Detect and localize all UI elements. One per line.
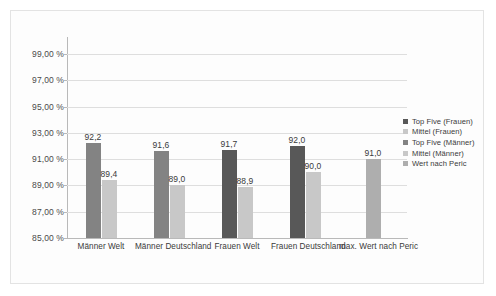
- bar: [154, 151, 169, 238]
- bar: [170, 185, 185, 238]
- bar-value-label: 89,0: [169, 174, 186, 184]
- x-axis-category-label: Frauen Deutschland: [271, 242, 339, 251]
- gridline: [67, 54, 407, 55]
- legend-label: Top Five (Männer): [412, 138, 474, 147]
- gridline: [67, 159, 407, 160]
- legend-swatch-icon: [403, 129, 408, 134]
- x-axis-category-label: Frauen Welt: [203, 242, 271, 251]
- bar-value-label: 92,0: [289, 135, 306, 145]
- legend-item[interactable]: Mittel (Männer): [403, 148, 495, 159]
- legend-item[interactable]: Wert nach Peric: [403, 158, 495, 169]
- bar-value-label: 91,6: [153, 140, 170, 150]
- bar-value-label: 91,7: [221, 139, 238, 149]
- legend-label: Mittel (Frauen): [412, 127, 462, 136]
- x-axis-category-label: Männer Welt: [67, 242, 135, 251]
- legend-item[interactable]: Top Five (Frauen): [403, 116, 495, 127]
- bar: [102, 180, 117, 238]
- y-axis-tick-label: 95,00 %: [32, 102, 64, 112]
- bar: [86, 143, 101, 238]
- bar-value-label: 91,0: [365, 148, 382, 158]
- gridline: [67, 107, 407, 108]
- bar: [306, 172, 321, 238]
- legend-item[interactable]: Mittel (Frauen): [403, 127, 495, 138]
- legend-swatch-icon: [403, 161, 408, 166]
- x-axis-line: [67, 238, 408, 239]
- legend-item[interactable]: Top Five (Männer): [403, 137, 495, 148]
- bar: [290, 146, 305, 238]
- bar-value-label: 88,9: [237, 176, 254, 186]
- chart-frame: 85,00 %87,00 %89,00 %91,00 %93,00 %95,00…: [10, 10, 484, 284]
- y-axis-tick-label: 87,00 %: [32, 207, 64, 217]
- gridline: [67, 80, 407, 81]
- bar: [238, 187, 253, 238]
- y-axis-tick-labels: 85,00 %87,00 %89,00 %91,00 %93,00 %95,00…: [11, 11, 64, 296]
- legend-label: Mittel (Männer): [412, 149, 464, 158]
- bar-value-label: 89,4: [101, 169, 118, 179]
- y-axis-tick-label: 97,00 %: [32, 75, 64, 85]
- bar: [366, 159, 381, 238]
- plot-area: 92,289,491,689,091,788,992,090,091,0: [67, 41, 407, 238]
- legend-swatch-icon: [403, 151, 408, 156]
- legend-swatch-icon: [403, 119, 408, 124]
- legend-swatch-icon: [403, 140, 408, 145]
- bar-value-label: 92,2: [85, 132, 102, 142]
- bar: [222, 150, 237, 238]
- legend-label: Top Five (Frauen): [412, 117, 473, 126]
- bar-value-label: 90,0: [305, 161, 322, 171]
- y-axis-tick-label: 85,00 %: [32, 233, 64, 243]
- x-axis-category-label: Männer Deutschland: [135, 242, 203, 251]
- y-axis-tick-label: 93,00 %: [32, 128, 64, 138]
- chart-legend: Top Five (Frauen)Mittel (Frauen)Top Five…: [403, 116, 495, 169]
- y-axis-tick-label: 89,00 %: [32, 180, 64, 190]
- x-axis-category-label: max. Wert nach Peric: [339, 242, 407, 251]
- gridline: [67, 133, 407, 134]
- y-axis-tick-label: 99,00 %: [32, 49, 64, 59]
- y-axis-tick-label: 91,00 %: [32, 154, 64, 164]
- legend-label: Wert nach Peric: [412, 159, 467, 168]
